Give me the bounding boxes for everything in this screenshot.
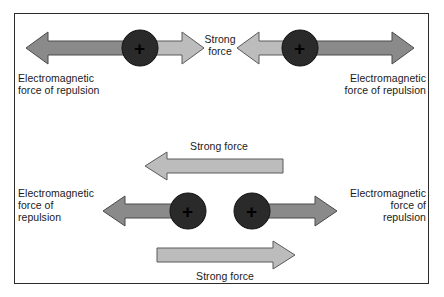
label-strong-force-bottom-upper: Strong force <box>164 140 274 152</box>
label-strong-force-bottom-lower: Strong force <box>170 270 280 282</box>
label-strong-force-top: Strong force <box>190 33 250 57</box>
label-em-top-right: Electromagnetic force of repulsion <box>290 72 426 96</box>
label-em-bottom-left: Electromagnetic force of repulsion <box>18 187 118 224</box>
label-em-bottom-right: Electromagnetic force of repulsion <box>326 187 426 224</box>
proton-top-left-charge: + <box>134 39 145 58</box>
physics-diagram: + + + + Electromagnetic force of repulsi… <box>0 0 444 297</box>
proton-top-right-charge: + <box>294 39 305 58</box>
proton-bottom-left-charge: + <box>182 202 193 221</box>
proton-bottom-right-charge: + <box>246 202 257 221</box>
label-em-top-left: Electromagnetic force of repulsion <box>18 72 153 96</box>
